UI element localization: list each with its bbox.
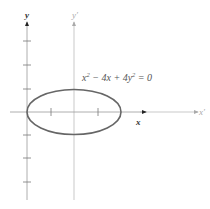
ellipse-diagram: y y′ x x′ x2 − 4x + 4y2 = 0 [0, 0, 210, 209]
y-prime-axis-label: y′ [71, 10, 79, 20]
y-axis-label: y [24, 10, 30, 20]
diagram-canvas: y y′ x x′ x2 − 4x + 4y2 = 0 [0, 0, 210, 209]
equation-label: x2 − 4x + 4y2 = 0 [81, 71, 152, 83]
x-prime-axis-label: x′ [198, 107, 206, 117]
x-axis-label: x [135, 117, 141, 127]
